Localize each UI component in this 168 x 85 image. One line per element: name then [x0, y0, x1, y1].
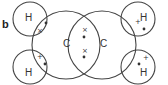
electron-cross: ×: [82, 26, 88, 34]
hydrogen-top-left-label: H: [25, 12, 32, 23]
ethene-dot-cross-diagram: b C C H H H H × + × × + +: [0, 0, 168, 85]
carbon-left-label: C: [63, 38, 70, 49]
electron-plus: +: [37, 53, 43, 61]
electron-dot: [44, 63, 47, 66]
part-label: b: [2, 18, 9, 30]
electron-cross: ×: [37, 27, 43, 35]
electron-dot: [45, 22, 48, 25]
hydrogen-bottom-right-shell: [121, 50, 155, 84]
carbon-right-label: C: [100, 38, 107, 49]
hydrogen-bottom-right-label: H: [140, 67, 147, 78]
electron-plus: +: [143, 54, 149, 62]
hydrogen-bottom-left-label: H: [25, 67, 32, 78]
electron-plus: +: [135, 18, 141, 26]
electron-dot: [138, 63, 141, 66]
electron-cross: ×: [82, 47, 88, 55]
electron-dot: [83, 36, 86, 39]
hydrogen-top-right-label: H: [140, 12, 147, 23]
electron-dot: [143, 28, 146, 31]
electron-dot: [83, 56, 86, 59]
